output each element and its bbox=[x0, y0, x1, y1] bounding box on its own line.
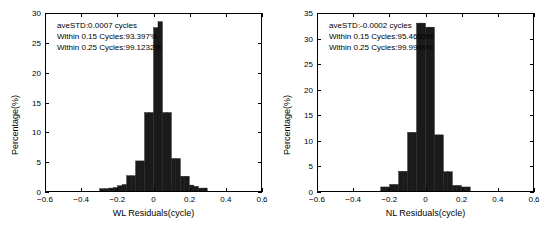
xaxis-tick-label: 0.2 bbox=[456, 195, 467, 204]
histogram-bar bbox=[466, 187, 470, 191]
yaxis-tick-label: 0 bbox=[291, 188, 313, 197]
xaxis-tick bbox=[117, 188, 118, 192]
xaxis-tick bbox=[81, 188, 82, 192]
xaxis-tick bbox=[190, 188, 191, 192]
histogram-bar bbox=[140, 161, 144, 191]
histogram-bar bbox=[100, 189, 104, 191]
histogram-bar bbox=[412, 132, 416, 191]
yaxis-tick bbox=[317, 192, 321, 193]
xaxis-tick bbox=[262, 188, 263, 192]
yaxis-tick bbox=[45, 43, 49, 44]
yaxis-tick-label: 25 bbox=[19, 38, 41, 47]
yaxis-tick bbox=[317, 90, 321, 91]
xaxis-tick-label: 0 bbox=[151, 195, 155, 204]
histogram-bar bbox=[448, 172, 452, 191]
histogram-bar bbox=[167, 113, 171, 191]
xaxis-tick-label: 0 bbox=[423, 195, 427, 204]
yaxis-tick-right bbox=[530, 90, 534, 91]
histogram-bar bbox=[394, 184, 398, 191]
xaxis-tick-top bbox=[154, 13, 155, 17]
yaxis-tick-right bbox=[258, 192, 262, 193]
xaxis-tick-top bbox=[190, 13, 191, 17]
xaxis-tick-top bbox=[117, 13, 118, 17]
xaxis-tick-top bbox=[498, 13, 499, 17]
yaxis-tick bbox=[317, 39, 321, 40]
yaxis-tick-label: 10 bbox=[291, 136, 313, 145]
yaxis-tick-label: 10 bbox=[19, 128, 41, 137]
xaxis-tick bbox=[154, 188, 155, 192]
histogram-bar bbox=[452, 185, 456, 191]
annotation-within025-wl: Within 0.25 Cycles:99.1232% bbox=[57, 42, 162, 53]
xaxis-tick-top bbox=[534, 13, 535, 17]
xaxis-tick-label: 0.6 bbox=[528, 195, 539, 204]
yaxis-tick-right bbox=[530, 192, 534, 193]
histogram-bar bbox=[434, 135, 438, 191]
histogram-bar bbox=[104, 189, 108, 191]
yaxis-tick-right bbox=[258, 132, 262, 133]
histogram-bar bbox=[122, 185, 126, 191]
xaxis-tick-label: −0.4 bbox=[73, 195, 89, 204]
xaxis-tick-top bbox=[426, 13, 427, 17]
yaxis-tick bbox=[317, 141, 321, 142]
annotation-within025-nl: Within 0.25 Cycles:99.9999% bbox=[329, 42, 434, 53]
xaxis-tick-top bbox=[389, 13, 390, 17]
histogram-bar bbox=[109, 188, 113, 191]
yaxis-tick-right bbox=[258, 13, 262, 14]
histogram-bar bbox=[439, 135, 443, 191]
yaxis-tick-right bbox=[258, 73, 262, 74]
annotation-within015-wl: Within 0.15 Cycles:93.397% bbox=[57, 31, 162, 42]
yaxis-tick-right bbox=[530, 13, 534, 14]
yaxis-tick-right bbox=[258, 162, 262, 163]
xaxis-label-wl: WL Residuals(cycle) bbox=[45, 208, 262, 218]
histogram-bar bbox=[194, 186, 198, 191]
yaxis-tick-label: 0 bbox=[19, 188, 41, 197]
histogram-bar bbox=[390, 184, 394, 191]
histogram-bar bbox=[171, 159, 175, 191]
xaxis-tick-label: −0.2 bbox=[109, 195, 125, 204]
histogram-bar bbox=[399, 171, 403, 191]
xaxis-tick-top bbox=[81, 13, 82, 17]
yaxis-tick-right bbox=[530, 115, 534, 116]
yaxis-tick-label: 30 bbox=[291, 34, 313, 43]
xaxis-tick-top bbox=[353, 13, 354, 17]
xaxis-tick bbox=[426, 188, 427, 192]
yaxis-tick bbox=[317, 64, 321, 65]
annotation-within015-nl: Within 0.15 Cycles:95.4693% bbox=[329, 31, 434, 42]
yaxis-tick bbox=[317, 13, 321, 14]
xaxis-tick-label: 0.4 bbox=[220, 195, 231, 204]
histogram-bar bbox=[403, 171, 407, 191]
histogram-bar bbox=[136, 161, 140, 191]
yaxis-tick-label: 30 bbox=[19, 9, 41, 18]
histogram-bar bbox=[203, 188, 207, 191]
xaxis-tick-label: 0.4 bbox=[492, 195, 503, 204]
panel-nl-residuals: aveSTD:-0.0002 cycles Within 0.15 Cycles… bbox=[272, 0, 544, 225]
yaxis-tick bbox=[317, 115, 321, 116]
yaxis-tick bbox=[45, 103, 49, 104]
xaxis-tick bbox=[498, 188, 499, 192]
xaxis-tick bbox=[534, 188, 535, 192]
histogram-bar bbox=[176, 159, 180, 191]
xaxis-label-nl: NL Residuals(cycle) bbox=[317, 208, 534, 218]
yaxis-tick bbox=[45, 132, 49, 133]
yaxis-tick-label: 20 bbox=[291, 85, 313, 94]
annotation-avestd-wl: aveSTD:0.0007 cycles bbox=[57, 20, 162, 31]
yaxis-tick-label: 25 bbox=[291, 60, 313, 69]
xaxis-tick-label: −0.4 bbox=[345, 195, 361, 204]
xaxis-tick bbox=[462, 188, 463, 192]
yaxis-tick-right bbox=[530, 141, 534, 142]
yaxis-tick bbox=[45, 192, 49, 193]
yaxis-tick-label: 5 bbox=[19, 158, 41, 167]
yaxis-label-nl: Percentage(%) bbox=[282, 95, 292, 155]
annotation-block-nl: aveSTD:-0.0002 cycles Within 0.15 Cycles… bbox=[329, 20, 434, 53]
xaxis-tick-top bbox=[262, 13, 263, 17]
histogram-bar bbox=[145, 113, 149, 191]
xaxis-tick bbox=[353, 188, 354, 192]
histogram-bar bbox=[127, 176, 131, 191]
xaxis-tick-label: 0.6 bbox=[256, 195, 267, 204]
yaxis-tick-right bbox=[530, 166, 534, 167]
histogram-bar bbox=[180, 176, 184, 191]
yaxis-tick-right bbox=[530, 39, 534, 40]
histogram-bar bbox=[131, 176, 135, 191]
yaxis-tick bbox=[45, 13, 49, 14]
xaxis-tick bbox=[389, 188, 390, 192]
